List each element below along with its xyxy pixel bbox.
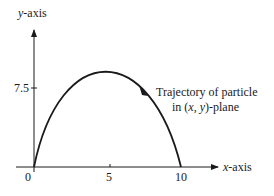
trajectory-diagram: y-axis 7.5 0 5 10 x-axis Trajectory of p… <box>0 0 274 196</box>
annotation-line-2: in (x, y)-plane <box>172 100 239 114</box>
x-axis-label: x-axis <box>222 160 252 174</box>
y-tick-label-7-5: 7.5 <box>14 81 29 95</box>
x-tick-label-0: 0 <box>25 170 31 184</box>
annotation-line-1: Trajectory of particle <box>156 85 258 99</box>
x-tick-label-10: 10 <box>175 170 187 184</box>
y-axis-label: y-axis <box>17 6 47 20</box>
x-tick-label-5: 5 <box>106 170 112 184</box>
